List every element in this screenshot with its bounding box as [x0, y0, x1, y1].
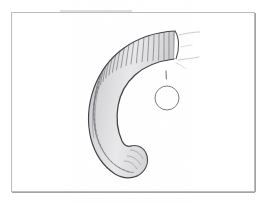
- specimen-illustration-canvas: [0, 0, 269, 203]
- figure-viewer: Curved ribbed horn specimen drawing: [0, 0, 269, 203]
